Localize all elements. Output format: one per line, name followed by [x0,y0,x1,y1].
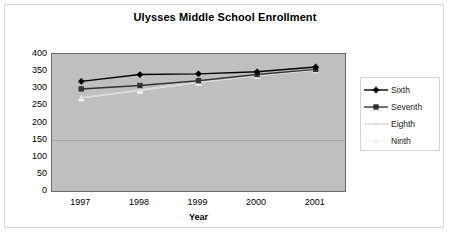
legend-key-icon [363,82,389,98]
y-axis-tick-label: 200 [32,118,47,127]
legend-item-label: Ninth [391,136,411,146]
legend-key-icon [363,99,389,115]
chart-object[interactable]: Ulysses Middle School Enrollment 4003503… [4,4,444,228]
y-axis-tick-label: 350 [32,66,47,75]
data-point-marker [80,96,83,99]
y-axis-tick-label: 50 [37,169,47,178]
legend-item-seventh[interactable]: Seventh [361,99,441,115]
legend-key-icon [363,133,389,149]
data-point-marker [373,104,378,109]
chart-legend: SixthSeventhEighthNinth [360,77,440,151]
data-point-marker [196,78,201,83]
legend-item-label: Seventh [391,102,422,112]
y-axis-tick-label: 400 [32,49,47,58]
plot-area [51,53,346,192]
y-axis-tick-label: 300 [32,83,47,92]
legend-item-ninth[interactable]: Ninth [361,133,441,149]
data-point-marker [374,122,377,125]
y-axis-tick-label: 100 [32,152,47,161]
y-axis-tick-label: 150 [32,135,47,144]
series-seventh [79,67,319,92]
x-axis: 19971998199920002001 [51,197,346,211]
x-axis-tick-label: 1997 [60,197,100,207]
data-point-marker [137,71,144,78]
data-point-marker [78,78,85,85]
legend-item-label: Sixth [391,85,410,95]
screenshot-canvas: Ulysses Middle School Enrollment 4003503… [0,0,452,250]
legend-key-icon [363,116,389,132]
chart-title: Ulysses Middle School Enrollment [5,11,445,23]
data-point-marker [137,83,142,88]
data-point-marker [373,87,380,94]
x-axis-tick-label: 1999 [178,197,218,207]
legend-item-eighth[interactable]: Eighth [361,116,441,132]
data-point-marker [138,88,141,91]
x-axis-tick-label: 1998 [119,197,159,207]
data-point-marker [195,70,202,77]
y-axis-tick-label: 250 [32,100,47,109]
y-axis-tick-label: 0 [42,186,47,195]
data-point-marker [79,86,84,91]
legend-item-sixth[interactable]: Sixth [361,82,441,98]
series-layer [52,54,345,191]
x-axis-tick-label: 2000 [236,197,276,207]
y-axis: 400350300250200150100500 [11,47,47,199]
x-axis-tick-label: 2001 [295,197,335,207]
legend-item-label: Eighth [391,119,415,129]
x-axis-title: Year [51,212,346,222]
